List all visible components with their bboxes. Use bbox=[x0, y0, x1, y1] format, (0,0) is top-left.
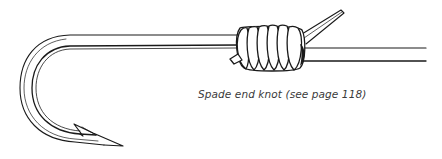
tag-end-inner bbox=[304, 12, 342, 38]
tag-end bbox=[302, 10, 344, 44]
figure-caption: Spade end knot (see page 118) bbox=[198, 88, 366, 100]
spade-end-knot-illustration bbox=[0, 0, 442, 159]
knot-wraps bbox=[230, 25, 305, 71]
fishing-line bbox=[302, 48, 426, 61]
